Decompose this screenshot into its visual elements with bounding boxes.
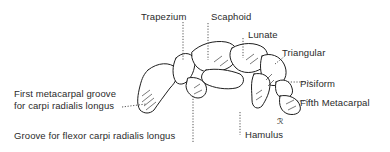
first-metacarpal-bone bbox=[138, 64, 178, 113]
artist-signature: ℛ bbox=[277, 116, 283, 127]
capitate-bone bbox=[202, 69, 244, 89]
label-first-metacarpal-line2: for carpi radialis longus bbox=[14, 100, 114, 111]
label-hamulus: Hamulus bbox=[245, 129, 283, 140]
label-triangular: Triangular bbox=[282, 47, 325, 58]
label-pisiform: Pisiform bbox=[300, 78, 335, 89]
label-groove-flexor: Groove for flexor carpi radialis longus bbox=[14, 130, 175, 141]
fifth-metacarpal-bone bbox=[279, 95, 300, 114]
label-trapezium: Trapezium bbox=[141, 11, 186, 22]
label-lunate: Lunate bbox=[248, 29, 278, 40]
label-scaphoid: Scaphoid bbox=[211, 11, 251, 22]
carpal-bones-diagram: Trapezium Scaphoid Lunate Triangular Pis… bbox=[0, 0, 390, 152]
label-first-metacarpal-line1: First metacarpal groove bbox=[14, 88, 116, 99]
label-fifth-metacarpal: Fifth Metacarpal bbox=[300, 97, 370, 108]
